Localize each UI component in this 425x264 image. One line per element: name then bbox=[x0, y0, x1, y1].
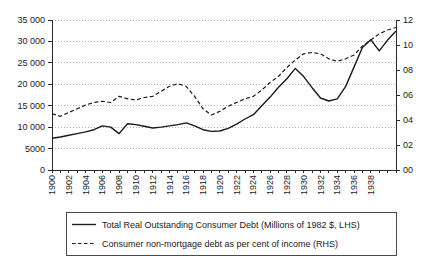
x-tick-label: 1914 bbox=[165, 175, 175, 195]
x-tick-label: 1918 bbox=[198, 175, 208, 195]
left-tick-label: 10 000 bbox=[17, 122, 45, 132]
x-tick-label: 1928 bbox=[282, 175, 292, 195]
legend-label-debt-income-ratio: Consumer non-mortgage debt as per cent o… bbox=[102, 239, 338, 249]
x-tick-label: 1936 bbox=[349, 175, 359, 195]
solid-line-sample-icon bbox=[72, 222, 96, 227]
x-tick-label: 1916 bbox=[181, 175, 191, 195]
x-tick-label: 1920 bbox=[215, 175, 225, 195]
consumer-debt-chart: 35 00030 00025 00020 00015 00010 0005000… bbox=[0, 0, 425, 264]
x-tick-label: 1926 bbox=[265, 175, 275, 195]
x-tick-label: 1902 bbox=[64, 175, 74, 195]
x-tick-label: 1912 bbox=[148, 175, 158, 195]
left-tick-label: 35 000 bbox=[17, 15, 45, 25]
right-tick-label: 04 bbox=[403, 115, 413, 125]
right-tick-label: 06 bbox=[403, 90, 413, 100]
left-tick-label: 20 000 bbox=[17, 79, 45, 89]
left-tick-label: 25 000 bbox=[17, 58, 45, 68]
x-tick-label: 1938 bbox=[366, 175, 376, 195]
left-tick-label: 15 000 bbox=[17, 101, 45, 111]
right-tick-label: 10 bbox=[403, 40, 413, 50]
x-tick-label: 1908 bbox=[114, 175, 124, 195]
legend-item-total-real-debt: Total Real Outstanding Consumer Debt (Mi… bbox=[72, 220, 391, 230]
left-tick-label: 0 bbox=[40, 165, 45, 175]
x-tick-label: 1934 bbox=[332, 175, 342, 195]
right-tick-label: 08 bbox=[403, 65, 413, 75]
left-tick-label: 30 000 bbox=[17, 36, 45, 46]
legend: Total Real Outstanding Consumer Debt (Mi… bbox=[66, 212, 397, 256]
left-tick-label: 5000 bbox=[25, 144, 45, 154]
right-tick-label: 12 bbox=[403, 15, 413, 25]
x-tick-label: 1932 bbox=[316, 175, 326, 195]
x-tick-label: 1900 bbox=[47, 175, 57, 195]
x-tick-label: 1906 bbox=[97, 175, 107, 195]
x-tick-label: 1904 bbox=[81, 175, 91, 195]
legend-item-debt-income-ratio: Consumer non-mortgage debt as per cent o… bbox=[72, 239, 391, 249]
x-tick-label: 1930 bbox=[299, 175, 309, 195]
right-tick-label: 00 bbox=[403, 165, 413, 175]
series-line-1 bbox=[52, 28, 396, 117]
legend-label-total-real-debt: Total Real Outstanding Consumer Debt (Mi… bbox=[102, 220, 360, 230]
x-tick-label: 1922 bbox=[232, 175, 242, 195]
x-tick-label: 1924 bbox=[248, 175, 258, 195]
right-tick-label: 02 bbox=[403, 140, 413, 150]
x-tick-label: 1910 bbox=[131, 175, 141, 195]
dashed-line-sample-icon bbox=[72, 241, 96, 246]
